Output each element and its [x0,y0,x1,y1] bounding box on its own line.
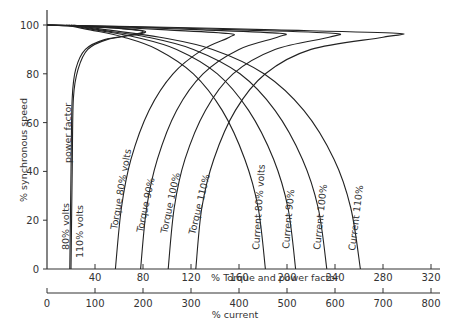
label-power-factor: power factor [62,103,73,163]
x-tick-label: 40 [89,272,102,283]
speed-torque-chart: 020406080100 4080120160200240280320 0100… [0,0,461,331]
x-axis-label: % Torque and power factor [211,272,339,283]
x2-tick-label: 600 [325,298,344,309]
y-tick-label: 0 [33,264,39,275]
x2-tick-label: 100 [85,298,104,309]
y-tick-label: 20 [26,215,39,226]
label-torque-90: Torque 90% [134,177,157,235]
x2-tick-label: 0 [44,298,50,309]
label-torque-110: Torque 110% [186,173,212,237]
x2-tick-label: 400 [229,298,248,309]
label-torque-80: Torque 80% volts [108,148,133,231]
label-torque-100: Torque 100% [158,172,182,236]
y-tick-label: 80 [26,69,39,80]
x-tick-label: 320 [421,272,440,283]
y-axis-label: % synchronous speed [18,98,29,202]
y-tick-label: 100 [20,20,39,31]
x2-tick-label: 300 [181,298,200,309]
x-tick-label: 280 [373,272,392,283]
x2-ticks: 0100200300400500600700800 [44,288,441,309]
x-tick-label: 120 [181,272,200,283]
curve-labels: 80% volts 110% volts power factor Torque… [60,103,365,258]
x-tick-label: 80 [137,272,150,283]
label-current-110: Current 110% [346,185,365,252]
x2-axis-label: % current [212,309,259,320]
x2-tick-label: 200 [133,298,152,309]
label-current-80: Current 80% volts [250,164,267,250]
label-current-100: Current 100% [311,184,329,251]
label-current-90: Current 90% [280,189,296,250]
x2-tick-label: 800 [421,298,440,309]
x2-tick-label: 700 [373,298,392,309]
label-pf-110: 110% volts [74,205,85,258]
label-pf-80: 80% volts [60,203,71,250]
x2-tick-label: 500 [277,298,296,309]
axes: 020406080100 4080120160200240280320 0100… [18,10,441,320]
